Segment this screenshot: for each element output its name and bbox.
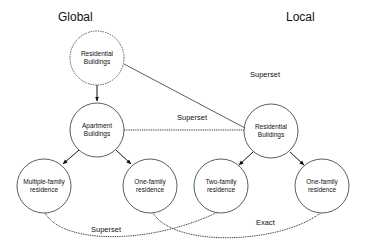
node-global-one-family[interactable]: One-family residence (123, 159, 177, 213)
global-section-title: Global (58, 10, 93, 24)
local-section-title: Local (286, 10, 315, 24)
mapping-diagram: Global Local Residential Buildings Apart… (0, 0, 366, 251)
edge-label-exact: Exact (256, 218, 276, 227)
svg-text:Residential: Residential (255, 123, 288, 130)
node-local-two-family[interactable]: Two-family residence (194, 159, 248, 213)
svg-text:residence: residence (30, 186, 59, 193)
arrow-apartment-multiple (63, 150, 79, 164)
arrow-local-residential-onefamily (290, 152, 304, 165)
svg-text:residence: residence (207, 186, 236, 193)
node-local-one-family[interactable]: One-family residence (295, 159, 349, 213)
svg-text:Buildings: Buildings (84, 130, 111, 138)
svg-text:residence: residence (136, 186, 165, 193)
edge-one-one-exact (152, 211, 322, 238)
svg-text:Two-family: Two-family (205, 178, 237, 186)
node-global-multiple-family[interactable]: Multiple-family residence (17, 159, 71, 213)
svg-text:Buildings: Buildings (258, 131, 285, 139)
arrow-apartment-onefamily (116, 150, 131, 164)
node-global-residential[interactable]: Residential Buildings (70, 31, 124, 85)
svg-text:Residential: Residential (81, 50, 114, 57)
edge-label-superset-bottom: Superset (91, 225, 122, 234)
edge-label-superset-middle: Superset (177, 113, 208, 122)
arrow-local-residential-twofamily (239, 152, 253, 165)
svg-text:Buildings: Buildings (84, 58, 111, 66)
svg-text:One-family: One-family (306, 178, 338, 186)
node-local-residential[interactable]: Residential Buildings (244, 104, 298, 158)
edge-multiple-two-superset (44, 211, 218, 237)
svg-text:One-family: One-family (134, 178, 166, 186)
edge-label-superset-top: Superset (250, 70, 281, 79)
svg-text:Multiple-family: Multiple-family (23, 178, 65, 186)
node-global-apartment[interactable]: Apartment Buildings (70, 103, 124, 157)
svg-text:residence: residence (308, 186, 337, 193)
svg-text:Apartment: Apartment (82, 122, 112, 130)
